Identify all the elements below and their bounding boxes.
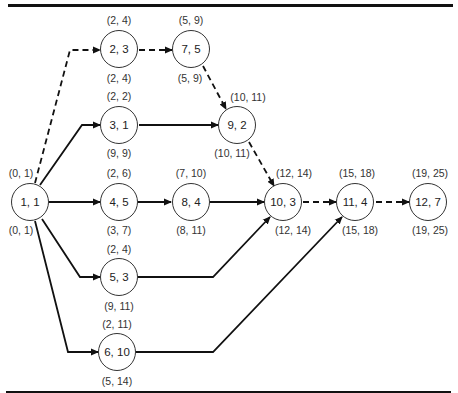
- node-8-label: 8, 4: [181, 196, 200, 208]
- node-10-label: 10, 3: [270, 196, 296, 208]
- node-5-bottom-label: (9, 11): [104, 300, 134, 312]
- node-11-bottom-label: (15, 18): [342, 224, 378, 236]
- node-1-bottom-label: (0, 1): [9, 224, 34, 236]
- node-11-label: 11, 4: [343, 196, 368, 208]
- node-10-bottom-label: (12, 14): [275, 224, 311, 236]
- node-4-top-label: (2, 6): [107, 167, 132, 179]
- edge-7-9: [203, 66, 226, 109]
- edges-layer: [0, 0, 458, 393]
- node-12: 12, 7: [409, 183, 447, 221]
- node-5-label: 5, 3: [109, 271, 128, 283]
- node-3-label: 3, 1: [109, 119, 128, 131]
- edge-1-2: [35, 50, 100, 183]
- node-2-top-label: (2, 4): [107, 14, 132, 26]
- edge-1-5: [42, 219, 100, 277]
- edge-9-10: [249, 142, 274, 186]
- node-1: 1, 1: [11, 183, 49, 221]
- node-9-bottom-label: (10, 11): [214, 147, 249, 159]
- node-8-top-label: (7, 10): [176, 167, 206, 179]
- node-7-label: 7, 5: [181, 43, 200, 55]
- node-6-bottom-label: (5, 14): [102, 375, 132, 387]
- node-1-label: 1, 1: [20, 196, 39, 208]
- node-12-top-label: (19, 25): [412, 167, 448, 179]
- node-3-bottom-label: (9, 9): [107, 147, 132, 159]
- node-6-top-label: (2, 11): [102, 318, 132, 330]
- node-5-top-label: (2, 4): [107, 243, 132, 255]
- node-6-label: 6, 10: [104, 346, 130, 358]
- node-4-label: 4, 5: [109, 196, 128, 208]
- node-4: 4, 5: [100, 183, 138, 221]
- node-4-bottom-label: (3, 7): [107, 224, 132, 236]
- node-7-top-label: (5, 9): [179, 14, 204, 26]
- edge-1-6: [35, 221, 98, 352]
- node-2-bottom-label: (2, 4): [107, 72, 132, 84]
- node-9: 9, 2: [218, 106, 256, 144]
- node-9-label: 9, 2: [227, 119, 246, 131]
- node-3-top-label: (2, 2): [107, 90, 132, 102]
- edge-1-3: [40, 125, 100, 185]
- node-8-bottom-label: (8, 11): [176, 224, 206, 236]
- node-5: 5, 3: [100, 258, 138, 296]
- node-10: 10, 3: [264, 183, 302, 221]
- edge-6-11: [136, 217, 342, 352]
- node-12-label: 12, 7: [415, 196, 441, 208]
- node-7: 7, 5: [172, 30, 210, 68]
- node-10-top-label: (12, 14): [276, 167, 312, 179]
- network-diagram: 1, 1 (0, 1) (0, 1) 2, 3 (2, 4) (2, 4) 3,…: [0, 0, 458, 393]
- node-6: 6, 10: [98, 333, 136, 371]
- node-7-bottom-label: (5, 9): [178, 72, 203, 84]
- node-11-top-label: (15, 18): [339, 167, 375, 179]
- node-2: 2, 3: [100, 30, 138, 68]
- node-9-top-label: (10, 11): [230, 91, 265, 103]
- node-11: 11, 4: [336, 183, 374, 221]
- node-3: 3, 1: [100, 106, 138, 144]
- node-2-label: 2, 3: [109, 43, 128, 55]
- node-8: 8, 4: [172, 183, 210, 221]
- node-1-top-label: (0, 1): [9, 167, 34, 179]
- node-12-bottom-label: (19, 25): [412, 224, 448, 236]
